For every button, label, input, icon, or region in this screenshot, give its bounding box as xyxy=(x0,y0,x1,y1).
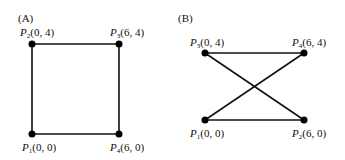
panel-label: (A) xyxy=(18,12,34,25)
vertex-dot xyxy=(301,117,308,124)
vertex-dot xyxy=(202,50,209,57)
vertex-label: P3(0, 4) xyxy=(189,36,224,50)
vertex-label: P2(6, 0) xyxy=(291,127,326,141)
vertex-dot xyxy=(29,131,36,138)
vertex-dot xyxy=(116,131,123,138)
vertex-dot xyxy=(29,41,36,48)
vertex-label: P4(6, 4) xyxy=(291,36,326,50)
vertex-dot xyxy=(116,41,123,48)
vertex-dot xyxy=(202,117,209,124)
vertex-dot xyxy=(301,50,308,57)
vertex-label: P2(0, 4) xyxy=(19,26,54,40)
diagram-figure: (A)P2(0, 4)P3(6, 4)P1(0, 0)P4(6, 0)(B)P3… xyxy=(0,0,345,160)
vertex-label: P1(0, 0) xyxy=(21,141,56,155)
vertex-label: P4(6, 0) xyxy=(109,141,144,155)
vertex-label: P3(6, 4) xyxy=(109,26,144,40)
panel-label: (B) xyxy=(178,12,193,25)
vertex-label: P1(0, 0) xyxy=(189,127,224,141)
